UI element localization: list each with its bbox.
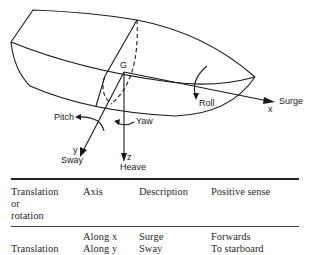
sway-axis [83, 72, 124, 151]
pitch-arrowhead [75, 114, 81, 120]
hull-deck-outline [11, 10, 255, 77]
group-translation: Translation [11, 227, 83, 255]
motion-table: Translation or rotation Axis Description… [11, 178, 299, 255]
table-header-row: Translation or rotation Axis Description… [11, 180, 299, 226]
ship-motion-diagram: G Surge x Roll Pitch Yaw y Sway z Heave [0, 0, 313, 172]
label-g: G [120, 60, 127, 70]
cell-axis: Along x [83, 227, 139, 243]
section-dashed-left [103, 78, 112, 104]
cell-axis: Along y [83, 243, 139, 255]
cell-positive-sense: To starboard [211, 243, 299, 255]
label-pitch: Pitch [54, 112, 74, 122]
hull-sheer-line [11, 42, 255, 84]
header-axis: Axis [83, 180, 139, 226]
yaw-arc [117, 122, 134, 125]
label-heave: Heave [120, 162, 146, 172]
label-surge: Surge [279, 96, 303, 106]
table-row: Translation Along x Surge Forwards [11, 227, 299, 243]
roll-arc [194, 66, 207, 97]
label-sway: Sway [61, 155, 84, 165]
label-y-axis: y [73, 145, 78, 155]
label-x-axis: x [268, 104, 273, 114]
header-translation-or-rotation: Translation or rotation [11, 180, 83, 226]
header-description: Description [139, 180, 211, 226]
surge-arrowhead [263, 97, 275, 104]
cell-description: Sway [139, 243, 211, 255]
section-line [96, 20, 137, 106]
label-yaw: Yaw [136, 116, 153, 126]
label-z-axis: z [127, 152, 132, 162]
cell-description: Surge [139, 227, 211, 243]
cell-positive-sense: Forwards [211, 227, 299, 243]
header-positive-sense: Positive sense [211, 180, 299, 226]
label-roll: Roll [199, 98, 215, 108]
yaw-arrowhead [114, 119, 120, 125]
